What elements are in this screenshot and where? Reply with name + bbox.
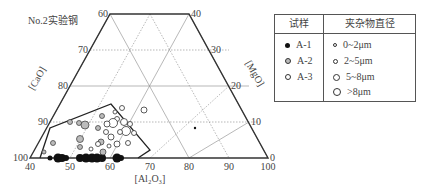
svg-text:10: 10 bbox=[251, 116, 261, 127]
medium-circle-icon bbox=[333, 59, 338, 64]
legend-size-0-2: 0~2μm bbox=[333, 37, 372, 53]
svg-text:50: 50 bbox=[65, 161, 75, 172]
svg-text:60: 60 bbox=[105, 161, 115, 172]
svg-text:70: 70 bbox=[145, 161, 155, 172]
bottom-tick-labels: 40 50 60 70 80 90 100 bbox=[25, 161, 276, 172]
svg-text:90: 90 bbox=[38, 116, 48, 127]
cao-axis-title: [CaO] bbox=[26, 65, 48, 92]
legend-size-header: 夹杂物直径 bbox=[324, 15, 415, 33]
crossed-circle-icon bbox=[285, 58, 291, 64]
legend-size-2-5: 2~5μm bbox=[333, 53, 373, 69]
legend-sample-a3: A-3 bbox=[285, 69, 313, 85]
legend-sample-a1: A-1 bbox=[285, 37, 312, 53]
svg-text:30: 30 bbox=[211, 44, 221, 55]
svg-text:80: 80 bbox=[184, 161, 194, 172]
svg-text:60: 60 bbox=[98, 8, 108, 19]
svg-text:40: 40 bbox=[191, 8, 201, 19]
legend-sample-a2: A-2 bbox=[285, 53, 313, 69]
legend-size-gt8: >8μm bbox=[333, 84, 371, 100]
al2o3-axis-title: [Al₂O₃] bbox=[135, 173, 166, 184]
large-circle-icon bbox=[333, 74, 340, 81]
legend: 试样 夹杂物直径 A-1 A-2 A-3 0~2μm 2~5μm 5~8μm >… bbox=[274, 14, 416, 102]
mgo-axis-title: [MgO] bbox=[243, 58, 266, 88]
filled-circle-icon bbox=[285, 43, 290, 48]
svg-text:20: 20 bbox=[231, 80, 241, 91]
svg-text:100: 100 bbox=[13, 152, 28, 163]
svg-text:70: 70 bbox=[78, 44, 88, 55]
outlier-point bbox=[194, 127, 196, 129]
legend-sample-header: 试样 bbox=[275, 15, 323, 33]
small-circle-icon bbox=[333, 43, 337, 47]
legend-size-5-8: 5~8μm bbox=[333, 69, 375, 85]
svg-text:80: 80 bbox=[58, 80, 68, 91]
xlarge-circle-icon bbox=[333, 88, 341, 96]
svg-text:0: 0 bbox=[270, 152, 275, 163]
right-tick-labels: 40 30 20 10 0 bbox=[191, 8, 275, 163]
svg-text:90: 90 bbox=[224, 161, 234, 172]
steel-label: No.2实验钢 bbox=[28, 12, 78, 27]
open-circle-icon bbox=[285, 74, 291, 80]
